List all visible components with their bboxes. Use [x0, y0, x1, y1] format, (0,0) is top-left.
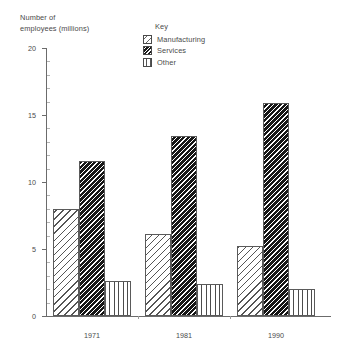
x-axis-group-separator	[230, 316, 231, 319]
y-minor-tick	[47, 276, 50, 277]
y-minor-tick	[47, 142, 50, 143]
y-axis-title-line-2: employees (millions)	[20, 24, 89, 35]
y-tick-label-20: 20	[28, 44, 36, 53]
y-minor-tick	[47, 289, 50, 290]
y-minor-tick	[47, 303, 50, 304]
y-minor-tick	[47, 75, 50, 76]
y-minor-tick	[47, 222, 50, 223]
legend-item-manufacturing: Manufacturing	[143, 34, 205, 45]
y-tick-10: 10	[42, 182, 46, 183]
y-minor-tick	[47, 209, 50, 210]
bar-chart: Number of employees (millions) Key Manuf…	[0, 0, 339, 349]
bar-services-1981	[171, 136, 197, 316]
y-tick-label-5: 5	[32, 245, 36, 254]
bar-services-1971	[79, 161, 105, 316]
x-axis-group-separator	[138, 316, 139, 319]
bar-other-1990	[289, 289, 315, 316]
plot-area: 05101520 197119811990	[46, 48, 331, 316]
y-tick-0: 0	[42, 316, 46, 317]
y-minor-tick	[47, 262, 50, 263]
x-axis-label-1981: 1981	[176, 331, 192, 340]
y-minor-tick	[47, 236, 50, 237]
x-axis-label-1971: 1971	[84, 331, 100, 340]
bar-services-1990	[263, 103, 289, 316]
bar-manufacturing-1990	[237, 246, 263, 316]
x-axis-label-1990: 1990	[268, 331, 284, 340]
y-axis-title-line-1: Number of	[20, 13, 89, 24]
y-axis-title: Number of employees (millions)	[20, 13, 89, 34]
y-minor-tick	[47, 88, 50, 89]
y-minor-tick	[47, 102, 50, 103]
x-axis-line	[46, 316, 331, 317]
y-minor-tick	[47, 155, 50, 156]
legend-title: Key	[155, 22, 205, 31]
legend-swatch-manufacturing-icon	[143, 35, 152, 44]
y-tick-label-15: 15	[28, 111, 36, 120]
y-minor-tick	[47, 195, 50, 196]
bar-manufacturing-1981	[145, 234, 171, 316]
legend-label-manufacturing: Manufacturing	[157, 35, 205, 44]
y-minor-tick	[47, 61, 50, 62]
bar-other-1981	[197, 284, 223, 316]
bar-other-1971	[105, 281, 131, 316]
y-tick-20: 20	[42, 48, 46, 49]
bar-manufacturing-1971	[53, 209, 79, 316]
y-tick-label-0: 0	[32, 312, 36, 321]
y-minor-tick	[47, 169, 50, 170]
y-tick-5: 5	[42, 249, 46, 250]
y-minor-tick	[47, 128, 50, 129]
y-tick-label-10: 10	[28, 178, 36, 187]
y-tick-15: 15	[42, 115, 46, 116]
